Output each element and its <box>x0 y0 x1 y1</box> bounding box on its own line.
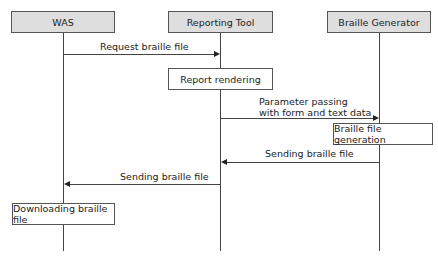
activity-label: Report rendering <box>180 74 261 85</box>
activity-braille-file-generation: Braille file generation <box>333 123 433 145</box>
message-label-sending-to-was: Sending braille file <box>120 171 209 182</box>
message-label-sending-to-tool: Sending braille file <box>265 148 354 159</box>
participant-reporting-tool: Reporting Tool <box>168 11 273 33</box>
participant-label: WAS <box>52 17 73 28</box>
message-arrow-sending-to-was <box>70 184 220 185</box>
message-arrow-request <box>64 54 214 55</box>
participant-label: Braille Generator <box>338 17 419 28</box>
activity-report-rendering: Report rendering <box>168 68 273 90</box>
message-arrow-parameter <box>221 118 373 119</box>
participant-label: Reporting Tool <box>187 17 255 28</box>
arrowhead-left-icon <box>64 181 70 187</box>
message-label-request: Request braille file <box>100 41 189 52</box>
message-arrow-sending-to-tool <box>227 162 379 163</box>
arrowhead-right-icon <box>373 115 379 121</box>
arrowhead-right-icon <box>214 51 220 57</box>
arrowhead-left-icon <box>221 159 227 165</box>
lifeline-reporting-tool <box>220 33 221 251</box>
activity-label: Downloading braille file <box>13 203 114 225</box>
message-label-parameter-line1: Parameter passing <box>259 96 348 107</box>
participant-braille-generator: Braille Generator <box>327 11 431 33</box>
message-label-parameter-line2: with form and text data <box>259 107 371 118</box>
participant-was: WAS <box>11 11 115 33</box>
activity-label: Braille file generation <box>334 123 432 145</box>
activity-downloading-braille-file: Downloading braille file <box>12 203 115 225</box>
